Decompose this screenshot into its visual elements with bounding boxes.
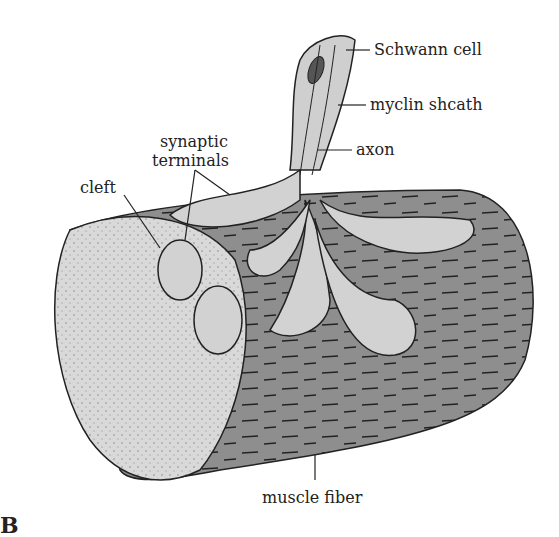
label-cleft: cleft xyxy=(80,180,116,196)
panel-letter: B xyxy=(0,512,19,537)
label-myelin-sheath: myclin shcath xyxy=(370,97,483,113)
label-schwann-cell: Schwann cell xyxy=(374,42,482,58)
label-axon: axon xyxy=(356,142,395,158)
label-synaptic: synaptic xyxy=(160,134,228,150)
label-muscle-fiber: muscle fiber xyxy=(262,490,362,506)
label-terminals: terminals xyxy=(152,153,229,169)
